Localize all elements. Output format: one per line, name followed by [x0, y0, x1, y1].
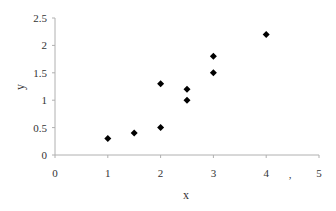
data-point-diamond-icon	[184, 86, 191, 93]
x-axis-title: x	[183, 188, 189, 202]
x-tick-label: 1	[105, 167, 111, 179]
scatter-chart: 00.511.522.5 012345 x y ,	[0, 0, 336, 211]
x-tick-label: 2	[158, 167, 164, 179]
x-tick-label: 5	[316, 167, 322, 179]
data-point-diamond-icon	[157, 124, 164, 131]
x-tick-label: 3	[211, 167, 217, 179]
data-point-diamond-icon	[157, 80, 164, 87]
y-tick-label: 0	[42, 149, 48, 161]
data-point-diamond-icon	[210, 53, 217, 60]
data-point-diamond-icon	[184, 97, 191, 104]
x-axis: 012345	[52, 155, 322, 179]
x-tick-label: 4	[263, 167, 269, 179]
y-tick-label: 1.5	[33, 67, 47, 79]
y-axis: 00.511.522.5	[33, 12, 55, 161]
y-tick-label: 2.5	[33, 12, 47, 24]
data-point-diamond-icon	[263, 31, 270, 38]
data-point-diamond-icon	[210, 69, 217, 76]
data-points	[104, 31, 269, 142]
stray-mark: ,	[289, 168, 292, 180]
y-tick-label: 1	[42, 94, 48, 106]
data-point-diamond-icon	[104, 135, 111, 142]
y-tick-label: 0.5	[33, 122, 47, 134]
y-axis-title: y	[13, 84, 27, 90]
x-tick-label: 0	[52, 167, 58, 179]
y-tick-label: 2	[42, 39, 48, 51]
data-point-diamond-icon	[131, 130, 138, 137]
